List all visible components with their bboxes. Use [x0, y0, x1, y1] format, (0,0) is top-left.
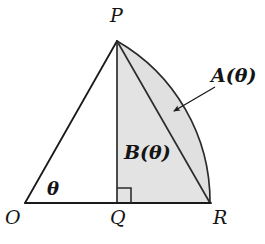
- vertex-label-q: Q: [110, 208, 126, 227]
- region-label-b: B(θ): [124, 143, 171, 162]
- vertex-label-r: R: [213, 208, 227, 227]
- region-label-a: A(θ): [211, 66, 256, 85]
- vertex-label-p: P: [110, 6, 123, 25]
- vertex-label-o: O: [5, 208, 21, 227]
- geometry-figure: O P Q R A(θ) B(θ) θ: [0, 0, 265, 244]
- leader-arrow-to-region-a: [174, 87, 215, 111]
- angle-label-theta: θ: [47, 180, 59, 198]
